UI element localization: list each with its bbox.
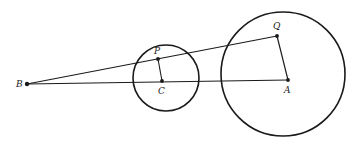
labels-group: B C P A Q	[15, 21, 291, 96]
large-circle	[221, 12, 345, 136]
point-Q	[275, 34, 279, 38]
label-P: P	[153, 46, 161, 56]
segment-BQ	[27, 36, 277, 84]
label-B: B	[15, 79, 23, 89]
points-group	[25, 34, 290, 86]
point-C	[160, 79, 164, 83]
point-A	[286, 78, 290, 82]
diagram-svg: B C P A Q	[0, 0, 359, 146]
label-A: A	[283, 85, 291, 95]
geometry-diagram: B C P A Q	[0, 0, 359, 146]
point-B	[25, 82, 29, 86]
label-Q: Q	[273, 21, 281, 31]
point-P	[156, 57, 160, 61]
segment-CP	[158, 59, 162, 81]
small-circle	[133, 45, 199, 111]
segment-AQ	[277, 36, 288, 80]
circles-group	[133, 12, 345, 136]
label-C: C	[158, 86, 165, 96]
segment-BA	[27, 80, 288, 84]
